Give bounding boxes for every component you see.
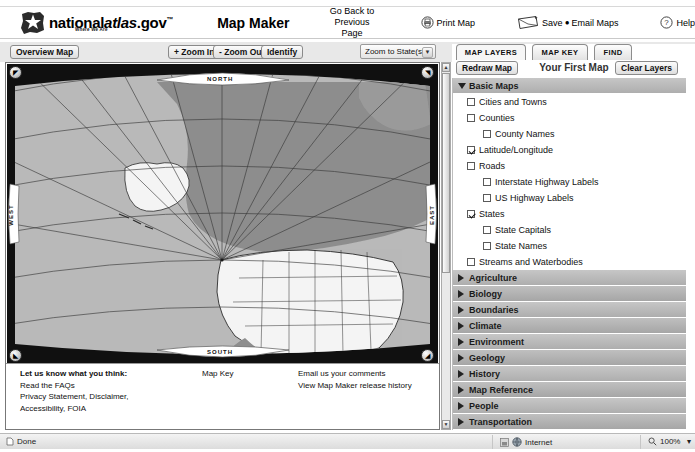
pan-southeast-button[interactable]: ◢ <box>421 349 434 362</box>
chevron-right-icon[interactable] <box>458 418 464 426</box>
layer-item-label: Interstate Highway Labels <box>495 174 599 190</box>
layer-item[interactable]: Cities and Towns <box>453 94 686 110</box>
layer-category-boundaries[interactable]: Boundaries <box>453 302 686 318</box>
layer-category-environment[interactable]: Environment <box>453 334 686 350</box>
map-label-west: WEST <box>8 204 14 225</box>
map-footer-links: Let us know what you think: Read the FAQ… <box>6 363 439 429</box>
layer-category-geology[interactable]: Geology <box>453 350 686 366</box>
footer-column-feedback: Let us know what you think: Read the FAQ… <box>20 368 128 414</box>
map-pane-scrollbar[interactable]: ▲ ▼ <box>441 62 451 430</box>
chevron-right-icon[interactable] <box>458 338 464 346</box>
clear-layers-button[interactable]: Clear Layers <box>615 61 678 75</box>
chevron-right-icon[interactable] <box>458 290 464 298</box>
chevron-right-icon[interactable] <box>458 370 464 378</box>
layer-checkbox[interactable] <box>483 242 491 250</box>
layer-category-people[interactable]: People <box>453 398 686 414</box>
layer-category-history[interactable]: History <box>453 366 686 382</box>
footer-column-mapkey: Map Key <box>202 368 234 380</box>
email-maps-label: Email Maps <box>571 18 618 28</box>
footer-privacy-link-line1[interactable]: Privacy Statement, Disclaimer, <box>20 391 128 403</box>
layer-checkbox[interactable] <box>483 194 491 202</box>
layer-item-label: State Names <box>495 238 547 254</box>
overview-map-button[interactable]: Overview Map <box>10 45 79 59</box>
layer-item[interactable]: Latitude/Longitude <box>453 142 686 158</box>
scroll-up-arrow-icon[interactable]: ▲ <box>442 63 450 72</box>
footer-email-comments-link[interactable]: Email us your comments <box>298 368 412 380</box>
help-button[interactable]: ? Help <box>660 16 695 29</box>
identify-button[interactable]: Identify <box>261 45 303 59</box>
layer-checkbox[interactable] <box>467 146 475 154</box>
scroll-down-arrow-icon[interactable]: ▼ <box>442 420 450 429</box>
chevron-down-icon[interactable] <box>458 83 466 89</box>
layer-category-basic-maps[interactable]: Basic Maps <box>453 78 686 94</box>
panel-action-bar: Redraw Map Your First Map Clear Layers <box>452 61 695 77</box>
layer-item[interactable]: US Highway Labels <box>453 190 686 206</box>
security-zone[interactable]: Internet <box>500 437 552 447</box>
print-map-button[interactable]: Print Map <box>421 16 476 29</box>
layer-item-label: Roads <box>479 158 505 174</box>
layer-checkbox[interactable] <box>467 98 475 106</box>
layer-checkbox[interactable] <box>467 162 475 170</box>
pan-northeast-button[interactable]: ◥ <box>421 66 434 79</box>
layer-category-label: Climate <box>469 321 502 331</box>
tab-find[interactable]: FIND <box>594 44 632 60</box>
layer-item[interactable]: Interstate Highway Labels <box>453 174 686 190</box>
chevron-right-icon[interactable] <box>458 402 464 410</box>
layer-category-label: Boundaries <box>469 305 519 315</box>
layer-item[interactable]: State Names <box>453 238 686 254</box>
layer-category-climate[interactable]: Climate <box>453 318 686 334</box>
site-logo-text: nationalatlas.gov™ Where We Are <box>49 15 173 30</box>
save-label: Save <box>542 18 563 28</box>
chevron-right-icon[interactable] <box>458 386 464 394</box>
zoom-level-control[interactable]: 100% ▾ <box>648 437 691 446</box>
footer-release-history-link[interactable]: View Map Maker release history <box>298 380 412 392</box>
layer-category-transportation[interactable]: Transportation <box>453 414 686 430</box>
zoom-to-state-select[interactable]: Zoom to State(s) ▼ <box>360 44 436 59</box>
map-viewport[interactable]: NORTH SOUTH WEST EAST ◤ ◥ ◣ ◢ Let us kno… <box>5 62 440 430</box>
layer-category-label: Agriculture <box>469 273 517 283</box>
layer-checkbox[interactable] <box>467 258 475 266</box>
chevron-right-icon[interactable] <box>458 306 464 314</box>
layer-category-agriculture[interactable]: Agriculture <box>453 270 686 286</box>
scrollbar-thumb[interactable] <box>442 73 450 273</box>
save-email-maps-button[interactable]: Save ● Email Maps <box>517 15 618 30</box>
redraw-map-button[interactable]: Redraw Map <box>456 61 518 75</box>
layer-item[interactable]: State Capitals <box>453 222 686 238</box>
layer-category-biology[interactable]: Biology <box>453 286 686 302</box>
layer-checkbox[interactable] <box>483 130 491 138</box>
layer-item[interactable]: States <box>453 206 686 222</box>
layer-tree[interactable]: Basic MapsCities and TownsCountiesCounty… <box>452 78 686 430</box>
layer-checkbox[interactable] <box>483 178 491 186</box>
layer-category-label: Map Reference <box>469 385 533 395</box>
map-image[interactable]: NORTH SOUTH WEST EAST ◤ ◥ ◣ ◢ <box>7 64 438 364</box>
help-label: Help <box>676 18 695 28</box>
chevron-right-icon[interactable] <box>458 322 464 330</box>
layer-item-label: Latitude/Longitude <box>479 142 553 158</box>
tab-map-key[interactable]: MAP KEY <box>532 44 588 60</box>
footer-privacy-link-line2[interactable]: Accessibility, FOIA <box>20 403 128 415</box>
go-back-link[interactable]: Go Back to Previous Page <box>326 6 379 39</box>
site-logo[interactable]: nationalatlas.gov™ Where We Are <box>20 11 173 35</box>
layer-item[interactable]: Counties <box>453 110 686 126</box>
pan-southwest-button[interactable]: ◣ <box>9 349 22 362</box>
layer-checkbox[interactable] <box>467 210 475 218</box>
map-title-label: Your First Map <box>524 62 624 73</box>
footer-faq-link[interactable]: Read the FAQs <box>20 380 128 392</box>
zoom-dropdown-caret-icon[interactable]: ▾ <box>687 437 691 446</box>
svg-text:?: ? <box>665 18 670 27</box>
footer-map-key-link[interactable]: Map Key <box>202 368 234 380</box>
logo-tagline: Where We Are <box>75 28 108 33</box>
logo-word-atlas: atlas <box>104 14 137 31</box>
layer-item[interactable]: Streams and Waterbodies <box>453 254 686 270</box>
pan-northwest-button[interactable]: ◤ <box>9 66 22 79</box>
chevron-right-icon[interactable] <box>458 274 464 282</box>
chevron-right-icon[interactable] <box>458 354 464 362</box>
tab-map-layers[interactable]: MAP LAYERS <box>456 44 526 60</box>
layer-category-map-reference[interactable]: Map Reference <box>453 382 686 398</box>
layer-item-label: State Capitals <box>495 222 551 238</box>
layer-checkbox[interactable] <box>467 114 475 122</box>
layer-item[interactable]: County Names <box>453 126 686 142</box>
layer-item[interactable]: Roads <box>453 158 686 174</box>
chevron-down-icon[interactable]: ▼ <box>422 47 433 58</box>
layer-checkbox[interactable] <box>483 226 491 234</box>
